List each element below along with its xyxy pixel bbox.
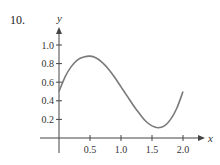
x-axis-label: x: [207, 132, 213, 144]
axes: xy: [40, 12, 213, 153]
y-tick-label: 1.0: [42, 40, 55, 51]
y-tick-label: 0.2: [42, 114, 55, 125]
x-tick-label: 1.5: [146, 144, 159, 155]
x-axis-arrow-icon: [198, 135, 205, 141]
y-tick-label: 0.6: [42, 77, 55, 88]
y-axis-arrow-icon: [56, 27, 62, 34]
function-graph: xy 0.51.01.52.00.20.40.60.81.0: [0, 0, 220, 165]
y-tick-label: 0.4: [42, 95, 55, 106]
y-axis-label: y: [56, 12, 62, 24]
x-tick-label: 0.5: [84, 144, 97, 155]
x-tick-label: 2.0: [177, 144, 190, 155]
function-curve: [59, 56, 183, 128]
x-tick-label: 1.0: [115, 144, 128, 155]
y-tick-label: 0.8: [42, 58, 55, 69]
